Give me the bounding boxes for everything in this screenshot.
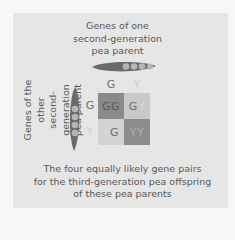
title-line: Genes of one: [0, 20, 235, 33]
cell-gy: GY: [124, 93, 150, 119]
cell-gg: GG: [98, 93, 124, 119]
cell-yy: YY: [124, 119, 150, 145]
pea-pod-vertical-icon: [69, 87, 81, 151]
cell-yg: YG: [98, 119, 124, 145]
column-header-g: G: [104, 78, 118, 91]
punnett-square: GG GY YG YY: [98, 93, 150, 145]
pea-pod-horizontal-icon: [92, 61, 156, 72]
caption-line: The four equally likely gene pairs: [0, 163, 235, 176]
title-line: pea parent: [0, 45, 235, 58]
row-header-g: G: [83, 99, 97, 112]
side-label-line: Genes of the other: [22, 70, 47, 150]
column-header-y: Y: [130, 78, 144, 91]
top-parent-label: Genes of one second-generation pea paren…: [0, 20, 235, 58]
row-header-y: Y: [83, 125, 97, 138]
title-line: second-generation: [0, 33, 235, 46]
caption: The four equally likely gene pairs for t…: [0, 163, 235, 201]
caption-line: of these pea parents: [0, 188, 235, 201]
caption-line: for the third-generation pea offspring: [0, 176, 235, 189]
